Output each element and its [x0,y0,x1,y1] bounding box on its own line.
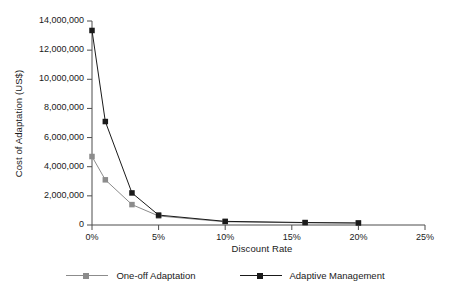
legend-entry-2[interactable]: Adaptive Management [240,270,385,281]
series-line-1 [92,157,358,224]
legend-entry-1[interactable]: One-off Adaptation [66,270,195,281]
chart-legend: One-off AdaptationAdaptive Management [0,270,451,281]
chart-figure: Cost of Adaptation (US$) Discount Rate 0… [0,0,451,300]
data-point-marker [129,202,135,208]
data-point-marker [103,177,109,183]
data-point-marker [156,212,162,218]
legend-label: Adaptive Management [282,270,385,281]
data-point-marker [356,220,362,226]
data-point-marker [129,190,135,196]
data-point-marker [89,154,95,160]
data-point-marker [222,219,228,225]
plot-area [0,0,451,300]
data-point-marker [103,119,109,125]
legend-swatch [240,271,282,281]
legend-swatch [66,271,108,281]
data-point-marker [89,28,95,34]
legend-label: One-off Adaptation [108,270,195,281]
legend-marker [257,273,263,279]
data-point-marker [302,220,308,226]
legend-marker [83,273,89,279]
